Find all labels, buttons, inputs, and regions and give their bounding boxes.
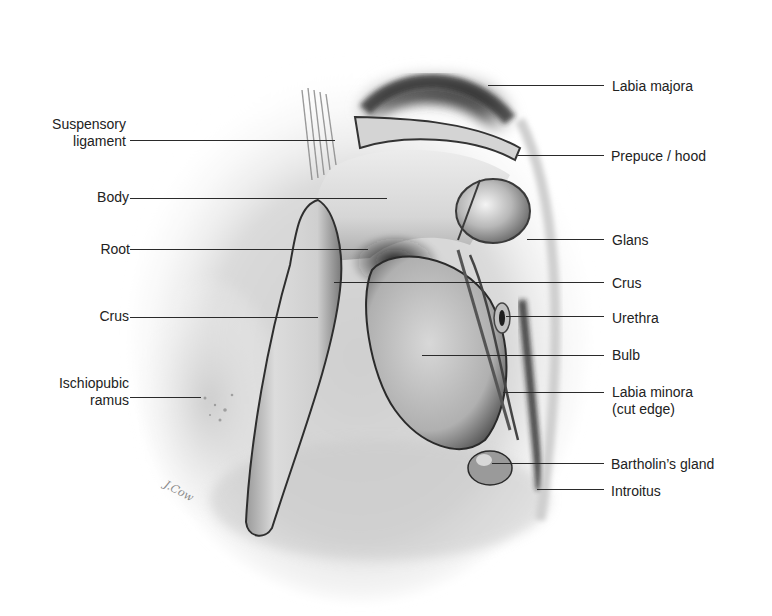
labia-majora-label-line: Labia majora	[612, 78, 693, 95]
introitus-leader-line	[537, 489, 604, 490]
crus-left-label: Crus	[99, 308, 129, 325]
anatomy-diagram: SuspensoryligamentBodyRootCrusIschiopubi…	[0, 0, 772, 616]
prepuce-hood-label: Prepuce / hood	[611, 148, 706, 165]
body-label-line: Body	[97, 189, 129, 206]
crus-right-label-line: Crus	[612, 275, 642, 292]
body-leader-line	[130, 198, 387, 199]
labia-majora-label: Labia majora	[612, 78, 693, 95]
labia-minora-cut-edge-label: Labia minora(cut edge)	[612, 384, 693, 418]
crus-left-label-line: Crus	[99, 308, 129, 325]
suspensory-ligament-leader-line	[130, 140, 335, 141]
crus-left-leader-line	[130, 317, 318, 318]
ischiopubic-ramus-leader-line	[130, 397, 201, 398]
crus-right-leader-line	[334, 282, 604, 283]
prepuce-hood-leader-line	[518, 155, 604, 156]
urethra-label-line: Urethra	[612, 310, 659, 327]
labia-majora-leader-line	[488, 85, 604, 86]
root-label-line: Root	[100, 241, 130, 258]
bartholins-gland-label-line: Bartholin’s gland	[611, 456, 714, 473]
crus-right-label: Crus	[612, 275, 642, 292]
glans-shape	[456, 179, 530, 243]
introitus-label-line: Introitus	[611, 483, 661, 500]
bulb-label-line: Bulb	[612, 347, 640, 364]
urethra-label: Urethra	[612, 310, 659, 327]
labia-minora-cut-edge-label-line: (cut edge)	[612, 401, 693, 418]
urethra-opening	[499, 310, 505, 326]
body-label: Body	[97, 189, 129, 206]
labia-minora-cut-edge-label-line: Labia minora	[612, 384, 693, 401]
ischiopubic-ramus-label-line: ramus	[59, 392, 129, 409]
bartholins-gland-highlight	[476, 454, 492, 466]
ischiopubic-ramus-label-line: Ischiopubic	[59, 375, 129, 392]
urethra-leader-line	[506, 316, 604, 317]
glans-label: Glans	[612, 232, 649, 249]
glans-label-line: Glans	[612, 232, 649, 249]
suspensory-ligament-label: Suspensoryligament	[52, 116, 126, 150]
prepuce-hood-label-line: Prepuce / hood	[611, 148, 706, 165]
ischiopubic-ramus-label: Ischiopubicramus	[59, 375, 129, 409]
root-leader-line	[130, 249, 368, 250]
root-label: Root	[100, 241, 130, 258]
bulb-leader-line	[422, 355, 604, 356]
labia-minora-cut-edge-leader-line	[503, 392, 604, 393]
glans-leader-line	[527, 239, 604, 240]
bulb-label: Bulb	[612, 347, 640, 364]
suspensory-ligament-label-line: Suspensory	[52, 116, 126, 133]
suspensory-ligament-label-line: ligament	[52, 133, 126, 150]
bartholins-gland-leader-line	[492, 463, 604, 464]
introitus-label: Introitus	[611, 483, 661, 500]
bartholins-gland-label: Bartholin’s gland	[611, 456, 714, 473]
